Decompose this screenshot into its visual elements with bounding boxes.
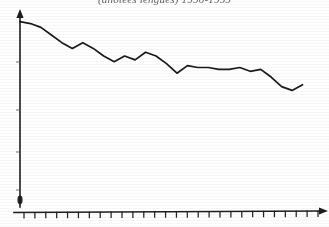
data-series-line [20,22,303,91]
plot-area [0,0,329,227]
chart-figure: (anotees lengues) 1990-1999 [0,0,329,227]
axis-origin-mark [17,196,22,205]
y-axis-group [16,9,24,207]
x-axis-group [14,208,328,219]
y-axis-arrow-icon [16,9,23,18]
x-axis-arrow-icon [319,208,328,215]
